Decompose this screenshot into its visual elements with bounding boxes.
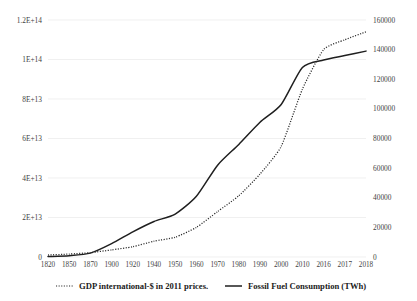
left-axis-tick-4: 8E+13 <box>22 95 42 104</box>
left-axis-tick-2: 4E+13 <box>22 174 42 183</box>
right-axis-tick-7: 140000 <box>373 45 395 54</box>
x-axis-tick-1950: 1950 <box>168 261 183 269</box>
x-axis-tick-1920: 1920 <box>126 261 141 269</box>
legend-label-fossil-fuel: Fossil Fuel Consumption (TWh) <box>248 281 366 291</box>
left-axis-tick-labels: 02E+134E+136E+138E+131E+141.2E+14 <box>17 16 43 262</box>
x-axis-tick-2000: 2000 <box>274 261 289 269</box>
series-line-fossil-fuel <box>48 51 366 256</box>
x-axis-tick-1900: 1900 <box>104 261 119 269</box>
x-axis-tick-1980: 1980 <box>232 261 247 269</box>
left-axis-tick-3: 6E+13 <box>22 134 42 143</box>
x-axis-tick-2018: 2018 <box>359 261 374 269</box>
right-axis-tick-3: 60000 <box>373 164 392 173</box>
x-axis-tick-1940: 1940 <box>147 261 162 269</box>
right-axis-tick-0: 0 <box>373 253 377 262</box>
right-axis-tick-5: 100000 <box>373 104 395 113</box>
x-axis-tick-1870: 1870 <box>83 261 98 269</box>
right-axis-tick-6: 120000 <box>373 75 395 84</box>
x-axis-tick-1850: 1850 <box>62 261 77 269</box>
legend-label-gdp: GDP international-$ in 2011 prices. <box>79 281 208 291</box>
right-axis-tick-labels: 0200004000060000800001000001200001400001… <box>373 16 395 262</box>
right-axis-tick-1: 20000 <box>373 223 392 232</box>
x-axis-tick-labels: 1820185018701900192019401950196019701980… <box>41 261 374 269</box>
right-axis-tick-8: 160000 <box>373 16 395 25</box>
x-axis-tick-2016: 2016 <box>316 261 331 269</box>
right-axis-tick-2: 40000 <box>373 193 392 202</box>
chart-legend: GDP international-$ in 2011 prices.Fossi… <box>56 281 366 291</box>
x-axis-tick-2010: 2010 <box>295 261 310 269</box>
x-axis-tick-2017: 2017 <box>338 261 353 269</box>
chart-container: 02E+134E+136E+138E+131E+141.2E+14 020000… <box>0 0 417 301</box>
chart-gridlines <box>48 20 366 257</box>
left-axis-tick-6: 1.2E+14 <box>17 16 43 25</box>
x-axis-tick-1960: 1960 <box>189 261 204 269</box>
series-line-gdp <box>48 32 366 255</box>
x-axis-tick-1820: 1820 <box>41 261 56 269</box>
x-axis-tick-1990: 1990 <box>253 261 268 269</box>
left-axis-tick-5: 1E+14 <box>22 55 42 64</box>
left-axis-tick-1: 2E+13 <box>22 213 42 222</box>
right-axis-tick-4: 80000 <box>373 134 392 143</box>
line-chart: 02E+134E+136E+138E+131E+141.2E+14 020000… <box>0 0 417 301</box>
x-axis-tick-1970: 1970 <box>210 261 225 269</box>
